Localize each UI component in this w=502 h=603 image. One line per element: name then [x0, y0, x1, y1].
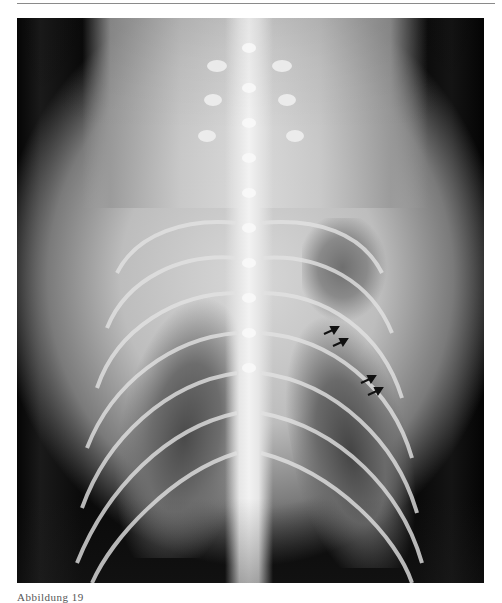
arrow-up-right-icon — [333, 339, 347, 346]
figure-caption: Abbildung 19 — [17, 591, 84, 603]
clavicle-processes — [198, 60, 304, 142]
arrow-up-right-icon — [324, 327, 338, 334]
vertebrae — [242, 43, 256, 373]
annotation-arrows — [324, 327, 382, 395]
ribs-right — [261, 222, 422, 583]
rib-and-arrow-overlay — [17, 18, 484, 583]
top-divider — [17, 3, 495, 4]
radiograph-figure — [17, 18, 484, 583]
ribs-left — [77, 222, 237, 583]
